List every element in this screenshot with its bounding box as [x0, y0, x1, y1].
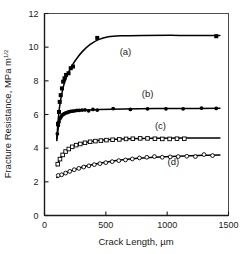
axis-lines	[45, 14, 229, 216]
marker-open-square	[183, 137, 187, 141]
marker-open-square	[74, 143, 78, 147]
marker-filled-circle	[200, 106, 204, 110]
x-tick-label: 1000	[157, 220, 177, 230]
y-tick-label: 6	[33, 110, 38, 120]
marker-filled-square	[71, 65, 75, 69]
y-axis-title: Fracture Resistance, MPa m1/2	[2, 49, 13, 178]
y-axis-ticks: 024681012	[28, 9, 48, 221]
y-axis-title-text: Fracture Resistance, MPa m	[2, 58, 13, 178]
marker-open-square	[111, 138, 115, 142]
marker-open-square	[175, 137, 179, 141]
marker-open-square	[83, 141, 87, 145]
y-tick-label: 0	[33, 211, 38, 221]
marker-filled-circle	[214, 107, 218, 111]
y-tick-label: 2	[33, 177, 38, 187]
series-markers-a	[56, 34, 218, 126]
marker-open-circle	[104, 161, 108, 165]
marker-open-circle	[193, 155, 197, 159]
marker-open-circle	[68, 170, 72, 174]
marker-filled-circle	[55, 132, 59, 136]
x-tick-label: 1500	[218, 220, 238, 230]
series-label-c: (c)	[155, 120, 166, 131]
marker-filled-circle	[95, 108, 99, 112]
series-label-d: (d)	[167, 156, 179, 167]
series-label-a: (a)	[120, 46, 132, 57]
plot-frame-rect	[45, 14, 229, 216]
marker-open-square	[56, 162, 60, 166]
y-tick-label: 12	[28, 9, 38, 19]
marker-open-square	[138, 137, 142, 141]
marker-filled-circle	[164, 107, 168, 111]
marker-open-circle	[124, 158, 128, 162]
marker-filled-circle	[128, 108, 132, 112]
series-label-b: (b)	[142, 88, 154, 99]
marker-filled-square	[57, 110, 61, 114]
x-axis-title: Crack Length, µm	[98, 236, 173, 247]
marker-open-circle	[92, 163, 96, 167]
marker-open-square	[124, 137, 128, 141]
x-axis-title-text: Crack Length, µm	[98, 236, 173, 247]
marker-open-circle	[64, 171, 68, 175]
marker-open-circle	[60, 173, 64, 177]
marker-filled-square	[214, 34, 218, 38]
plot-frame	[45, 14, 229, 216]
marker-open-square	[146, 137, 150, 141]
x-tick-label: 500	[98, 220, 113, 230]
marker-open-circle	[77, 166, 81, 170]
x-axis-ticks: 050010001500	[42, 212, 239, 230]
y-tick-label: 8	[33, 76, 38, 86]
fracture-resistance-scatter-chart: 024681012 050010001500 (a)(b)(c)(d) Crac…	[0, 0, 248, 254]
x-tick-label: 0	[42, 220, 47, 230]
marker-open-square	[168, 137, 172, 141]
y-axis-title-exponent: 1/2	[3, 49, 9, 58]
marker-open-circle	[110, 160, 114, 164]
marker-open-square	[70, 145, 74, 149]
marker-open-circle	[211, 154, 215, 158]
marker-open-square	[118, 138, 122, 142]
y-axis-title-group: Fracture Resistance, MPa m1/2	[2, 49, 13, 178]
marker-open-circle	[153, 155, 157, 159]
marker-filled-circle	[91, 108, 95, 112]
marker-open-circle	[130, 157, 134, 161]
marker-open-square	[94, 139, 98, 143]
marker-filled-circle	[57, 120, 61, 124]
marker-open-circle	[117, 159, 121, 163]
marker-open-square	[79, 142, 83, 146]
marker-open-circle	[202, 153, 206, 157]
marker-filled-square	[59, 93, 63, 97]
marker-open-circle	[145, 155, 149, 159]
marker-filled-circle	[87, 109, 91, 113]
marker-filled-circle	[111, 107, 115, 111]
marker-filled-circle	[83, 108, 87, 112]
marker-open-circle	[72, 168, 76, 172]
marker-open-square	[160, 137, 164, 141]
marker-open-square	[153, 137, 157, 141]
fit-curve-b	[57, 108, 220, 140]
marker-open-circle	[98, 162, 102, 166]
fit-curve-a	[57, 35, 220, 139]
marker-filled-square	[67, 71, 71, 75]
marker-open-square	[105, 138, 109, 142]
marker-open-square	[58, 157, 62, 161]
marker-filled-circle	[146, 107, 150, 111]
marker-filled-square	[95, 36, 99, 40]
series-labels: (a)(b)(c)(d)	[120, 46, 179, 167]
marker-open-square	[131, 137, 135, 141]
marker-open-square	[99, 139, 103, 143]
series-markers-b	[55, 106, 218, 136]
marker-open-square	[88, 140, 92, 144]
marker-open-circle	[138, 156, 142, 160]
y-tick-label: 10	[28, 42, 38, 52]
marker-filled-square	[58, 100, 62, 104]
marker-open-circle	[185, 154, 189, 158]
marker-filled-square	[60, 86, 64, 90]
marker-filled-circle	[181, 107, 185, 111]
marker-open-circle	[87, 164, 91, 168]
chart-figure: 024681012 050010001500 (a)(b)(c)(d) Crac…	[0, 0, 248, 254]
marker-open-circle	[160, 155, 164, 159]
data-markers	[55, 34, 218, 177]
y-tick-label: 4	[33, 143, 38, 153]
marker-filled-circle	[56, 124, 60, 128]
marker-open-circle	[82, 165, 86, 169]
